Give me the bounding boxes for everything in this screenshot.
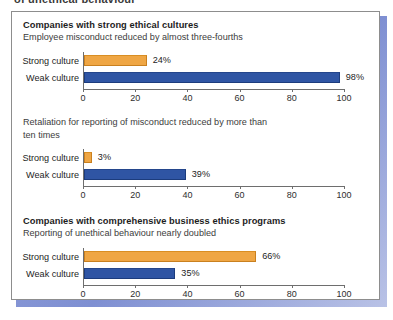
chart-2-row-strong-culture: Strong culture 66% (12, 250, 379, 264)
chart-1-row-strong-culture: Strong culture 3% (12, 151, 379, 165)
chart-2-bar-0 (84, 251, 256, 262)
chart-1-tick-20 (135, 186, 136, 189)
chart-0-tick-label-40: 40 (182, 93, 192, 103)
chart-1-category-label-1: Weak culture (12, 168, 79, 182)
chart-0-tick-0 (83, 89, 84, 92)
chart-0-title: Companies with strong ethical cultures (23, 20, 379, 30)
chart-0-tick-80 (292, 89, 293, 92)
chart-1-axis-vertical (83, 149, 84, 186)
chart-1-tick-label-0: 0 (80, 190, 85, 200)
chart-0-bar-0 (84, 55, 147, 66)
chart-1-tick-0 (83, 186, 84, 189)
chart-block-0: Companies with strong ethical cultures E… (12, 20, 379, 105)
chart-1-bar-1 (84, 169, 186, 180)
chart-0-tick-40 (187, 89, 188, 92)
chart-1-tick-label-20: 20 (130, 190, 140, 200)
chart-panel: Companies with strong ethical cultures E… (11, 11, 380, 300)
chart-0-tick-100 (344, 89, 345, 92)
chart-0-row-strong-culture: Strong culture 24% (12, 54, 379, 68)
top-caption-fragment: of unethical behaviour (14, 0, 354, 5)
chart-2-tick-20 (135, 285, 136, 288)
chart-0-value-label-1: 98% (346, 71, 364, 84)
chart-1-tick-40 (187, 186, 188, 189)
chart-1-value-label-0: 3% (98, 151, 111, 164)
chart-2-tick-label-20: 20 (130, 289, 140, 299)
chart-1-bar-0 (84, 152, 92, 163)
chart-2-row-weak-culture: Weak culture 35% (12, 267, 379, 281)
chart-2-title: Companies with comprehensive business et… (23, 216, 379, 226)
chart-0-value-label-0: 24% (153, 54, 171, 67)
chart-0-tick-label-100: 100 (336, 93, 351, 103)
chart-1-tick-60 (240, 186, 241, 189)
chart-2-plot: Strong culture 66% Weak culture 35% 0204… (12, 247, 379, 301)
chart-2-axis-vertical (83, 248, 84, 285)
chart-0-tick-20 (135, 89, 136, 92)
chart-1-plot: Strong culture 3% Weak culture 39% 02040… (12, 148, 379, 202)
chart-1-tick-label-60: 60 (235, 190, 245, 200)
chart-block-2: Companies with comprehensive business et… (12, 216, 379, 300)
chart-2-tick-60 (240, 285, 241, 288)
chart-1-category-label-0: Strong culture (12, 151, 79, 165)
chart-2-tick-label-80: 80 (287, 289, 297, 299)
chart-0-tick-label-80: 80 (287, 93, 297, 103)
chart-2-tick-label-40: 40 (182, 289, 192, 299)
chart-1-tick-80 (292, 186, 293, 189)
chart-2-tick-40 (187, 285, 188, 288)
chart-2-category-label-1: Weak culture (12, 267, 79, 281)
chart-block-1: Retaliation for reporting of misconduct … (12, 116, 379, 202)
chart-2-tick-100 (344, 285, 345, 288)
chart-0-category-label-0: Strong culture (12, 54, 79, 68)
chart-1-tick-100 (344, 186, 345, 189)
chart-0-tick-label-20: 20 (130, 93, 140, 103)
chart-2-tick-label-60: 60 (235, 289, 245, 299)
chart-2-tick-0 (83, 285, 84, 288)
chart-0-category-label-1: Weak culture (12, 71, 79, 85)
chart-1-subtitle: Retaliation for reporting of misconduct … (23, 116, 275, 141)
chart-0-tick-label-0: 0 (80, 93, 85, 103)
chart-0-row-weak-culture: Weak culture 98% (12, 71, 379, 85)
chart-0-subtitle: Employee misconduct reduced by almost th… (23, 31, 275, 44)
chart-1-tick-label-80: 80 (287, 190, 297, 200)
chart-1-tick-label-40: 40 (182, 190, 192, 200)
chart-2-category-label-0: Strong culture (12, 250, 79, 264)
chart-0-tick-60 (240, 89, 241, 92)
chart-2-tick-80 (292, 285, 293, 288)
chart-2-axis-horizontal (83, 285, 345, 286)
chart-0-plot: Strong culture 24% Weak culture 98% 0204… (12, 51, 379, 105)
chart-2-subtitle: Reporting of unethical behaviour nearly … (23, 227, 275, 240)
chart-0-axis-vertical (83, 52, 84, 89)
chart-2-tick-label-100: 100 (336, 289, 351, 299)
chart-0-axis-horizontal (83, 89, 345, 90)
chart-1-tick-label-100: 100 (336, 190, 351, 200)
chart-1-axis-horizontal (83, 186, 345, 187)
chart-0-bar-1 (84, 72, 340, 83)
chart-1-row-weak-culture: Weak culture 39% (12, 168, 379, 182)
chart-2-tick-label-0: 0 (80, 289, 85, 299)
chart-0-tick-label-60: 60 (235, 93, 245, 103)
chart-2-bar-1 (84, 268, 175, 279)
chart-2-value-label-0: 66% (262, 250, 280, 263)
chart-1-value-label-1: 39% (192, 168, 210, 181)
chart-2-value-label-1: 35% (181, 267, 199, 280)
